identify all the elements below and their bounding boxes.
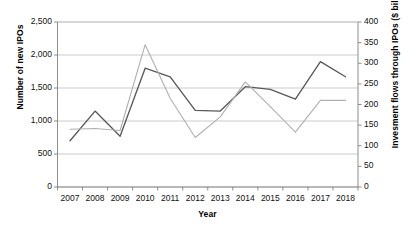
y-tick-label-left: 1,000 — [12, 115, 52, 125]
ipo-line-chart: Number of new IPOs Invesment flows throu… — [0, 0, 410, 230]
y-tick-label-right: 250 — [364, 78, 404, 88]
plot-background — [58, 22, 359, 187]
y-tick-label-right: 0 — [364, 181, 404, 191]
y-tick-label-left: 2,000 — [12, 49, 52, 59]
y-tick-label-right: 200 — [364, 99, 404, 109]
y-tick-label-right: 50 — [364, 160, 404, 170]
y-tick-label-right: 100 — [364, 140, 404, 150]
x-tick-label: 2018 — [330, 193, 360, 203]
y-tick-label-right: 400 — [364, 16, 404, 26]
y-tick-label-right: 350 — [364, 37, 404, 47]
y-tick-label-right: 300 — [364, 57, 404, 67]
y-tick-label-right: 150 — [364, 119, 404, 129]
y-tick-label-left: 2,500 — [12, 16, 52, 26]
y-tick-label-left: 500 — [12, 148, 52, 158]
x-axis-title: Year — [57, 209, 358, 219]
y-tick-label-left: 0 — [12, 181, 52, 191]
y-tick-label-left: 1,500 — [12, 82, 52, 92]
